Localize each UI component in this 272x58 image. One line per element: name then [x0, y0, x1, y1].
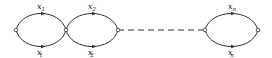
label-loop-1-bottom: x′1 [37, 46, 43, 58]
loop-2 [66, 14, 118, 47]
loop-n [205, 14, 258, 47]
loop-n-top-edge [205, 14, 258, 31]
label-loop-1-top: x1 [37, 2, 45, 12]
loop-2-top-edge [66, 14, 118, 31]
loop-chain-diagram: x1 x′1 x2 x′2 xn x′n [0, 0, 272, 58]
node-2 [64, 28, 68, 32]
nodes [14, 28, 260, 32]
node-1 [14, 28, 18, 32]
label-loop-2-top: x2 [88, 2, 97, 12]
node-4 [203, 28, 207, 32]
node-3 [116, 28, 120, 32]
loop-1 [16, 14, 66, 47]
loop-1-top-edge [16, 14, 66, 31]
label-loop-n-top: xn [228, 2, 237, 12]
node-5 [256, 28, 260, 32]
label-loop-n-bottom: x′n [228, 46, 234, 58]
label-loop-2-bottom: x′2 [88, 46, 94, 58]
loop-1-bottom-edge [16, 30, 66, 47]
loop-2-bottom-edge [66, 30, 118, 47]
loop-n-bottom-edge [205, 30, 258, 47]
